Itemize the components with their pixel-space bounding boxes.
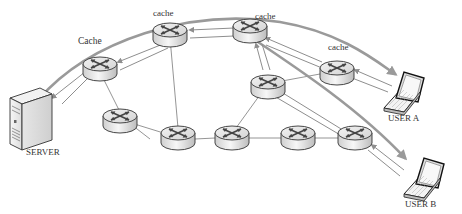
label-user-b: USER B [405, 199, 436, 209]
label-user-a: USER A [388, 113, 420, 123]
laptop-user-a-icon [384, 72, 424, 115]
laptop-user-b-icon [404, 158, 444, 201]
label-cache-top: cache [153, 8, 173, 18]
router-r10 [338, 126, 372, 150]
network-diagram: Cache cache cache cache SERVER USER A US… [0, 0, 462, 214]
label-server: SERVER [26, 147, 60, 157]
label-cache-top-right: cache [255, 11, 275, 21]
router-r3 [233, 19, 267, 43]
router-r8 [215, 126, 249, 150]
server-icon [10, 88, 52, 150]
router-r2 [153, 23, 187, 47]
router-r4 [320, 61, 354, 85]
router-r6 [103, 109, 137, 133]
router-r7 [161, 126, 195, 150]
label-cache-left: Cache [78, 36, 102, 46]
router-r9 [281, 126, 315, 150]
router-r5 [251, 75, 285, 99]
router-r1 [83, 57, 117, 81]
label-cache-right: cache [328, 42, 348, 52]
